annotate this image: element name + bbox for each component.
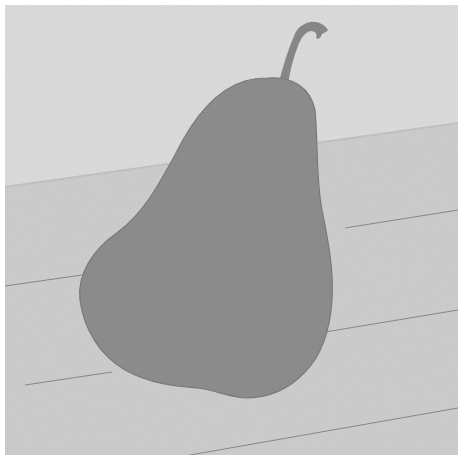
pear-painting	[0, 0, 463, 460]
painting-frame	[0, 0, 463, 460]
